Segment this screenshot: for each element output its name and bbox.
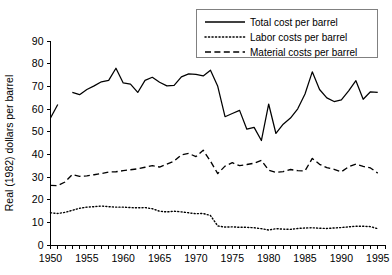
chart-container: 0102030405060708090 19501955196019651970… bbox=[0, 0, 392, 275]
y-tick-label: 70 bbox=[32, 80, 44, 92]
series-line-total-cost bbox=[72, 68, 377, 140]
x-tick-label: 1995 bbox=[366, 252, 390, 264]
line-chart: 0102030405060708090 19501955196019651970… bbox=[0, 0, 392, 275]
x-tick-label: 1980 bbox=[257, 252, 281, 264]
x-tick-label: 1970 bbox=[184, 252, 208, 264]
x-tick-label: 1965 bbox=[148, 252, 172, 264]
y-tick-label: 60 bbox=[32, 103, 44, 115]
x-axis: 1950195519601965197019751980198519901995 bbox=[39, 245, 390, 264]
x-tick-label: 1990 bbox=[330, 252, 354, 264]
x-tick-label: 1950 bbox=[39, 252, 63, 264]
y-tick-label: 20 bbox=[32, 193, 44, 205]
y-tick-label: 30 bbox=[32, 171, 44, 183]
data-series-group bbox=[51, 68, 378, 230]
y-tick-label: 90 bbox=[32, 35, 44, 47]
y-tick-label: 50 bbox=[32, 125, 44, 137]
y-axis: 0102030405060708090 bbox=[32, 35, 51, 251]
x-tick-label: 1985 bbox=[293, 252, 317, 264]
y-tick-label: 40 bbox=[32, 148, 44, 160]
y-tick-label: 10 bbox=[32, 216, 44, 228]
y-axis-title-text: Real (1982) dollars per barrel bbox=[3, 75, 15, 212]
series-line-material-cost bbox=[51, 150, 378, 185]
series-line-labor-cost bbox=[51, 206, 378, 230]
x-tick-label: 1955 bbox=[75, 252, 99, 264]
legend-label: Total cost per barrel bbox=[250, 17, 338, 28]
x-tick-label: 1960 bbox=[112, 252, 136, 264]
legend-label: Material costs per barrel bbox=[250, 47, 357, 58]
y-tick-label: 0 bbox=[38, 239, 44, 251]
y-axis-title: Real (1982) dollars per barrel bbox=[3, 75, 15, 212]
y-tick-label: 80 bbox=[32, 57, 44, 69]
chart-legend: Total cost per barrelLabor costs per bar… bbox=[196, 9, 377, 58]
legend-label: Labor costs per barrel bbox=[250, 32, 347, 43]
x-tick-label: 1975 bbox=[221, 252, 245, 264]
series-line-total-cost bbox=[51, 104, 58, 118]
